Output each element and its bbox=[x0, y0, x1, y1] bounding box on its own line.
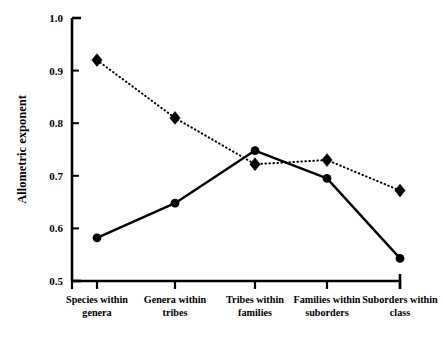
line-chart: 0.50.60.70.80.91.0Allometric exponentSpe… bbox=[0, 0, 444, 342]
chart-figure: 0.50.60.70.80.91.0Allometric exponentSpe… bbox=[0, 0, 444, 342]
x-category-label-line: Tribes within bbox=[226, 294, 284, 305]
x-category-label-line: Families within bbox=[293, 294, 360, 305]
x-category-label-0: Species withingenera bbox=[66, 294, 128, 318]
y-tick-label: 0.7 bbox=[49, 170, 63, 182]
data-point-diamond bbox=[250, 158, 260, 171]
y-axis-title: Allometric exponent bbox=[15, 94, 29, 203]
x-category-label-2: Tribes withinfamilies bbox=[226, 294, 284, 318]
x-category-label-line: Species within bbox=[66, 294, 128, 305]
x-category-label-line: class bbox=[390, 307, 410, 318]
y-tick-label: 0.9 bbox=[49, 65, 63, 77]
data-point-diamond bbox=[92, 54, 102, 67]
x-category-label-line: suborders bbox=[305, 307, 349, 318]
data-point-diamond bbox=[395, 184, 405, 197]
x-category-label-4: Suborders withinclass bbox=[362, 294, 438, 318]
series-solid-circle-series bbox=[93, 146, 405, 263]
data-point-circle bbox=[93, 233, 102, 242]
x-category-label-line: Genera within bbox=[144, 294, 207, 305]
x-category-label-3: Families withinsuborders bbox=[293, 294, 360, 318]
x-category-label-line: Suborders within bbox=[362, 294, 438, 305]
y-tick-label: 0.5 bbox=[49, 275, 63, 287]
series-line-solid-circle-series bbox=[97, 151, 400, 259]
x-category-label-1: Genera withintribes bbox=[144, 294, 207, 318]
y-tick-label: 0.8 bbox=[49, 117, 63, 129]
data-point-diamond bbox=[170, 112, 180, 125]
x-category-label-line: genera bbox=[82, 307, 111, 318]
data-point-diamond bbox=[322, 154, 332, 167]
x-category-label-line: families bbox=[238, 307, 272, 318]
data-point-circle bbox=[396, 254, 405, 263]
y-tick-label: 1.0 bbox=[49, 12, 63, 24]
y-tick-label: 0.6 bbox=[49, 222, 63, 234]
data-point-circle bbox=[251, 146, 260, 155]
data-point-circle bbox=[323, 174, 332, 183]
label-layer: 0.50.60.70.80.91.0Allometric exponentSpe… bbox=[15, 12, 438, 318]
data-point-circle bbox=[171, 199, 180, 208]
x-category-label-line: tribes bbox=[163, 307, 188, 318]
series-layer bbox=[92, 54, 405, 263]
series-line-dotted-diamond-series bbox=[97, 60, 400, 190]
series-dotted-diamond-series bbox=[92, 54, 405, 197]
